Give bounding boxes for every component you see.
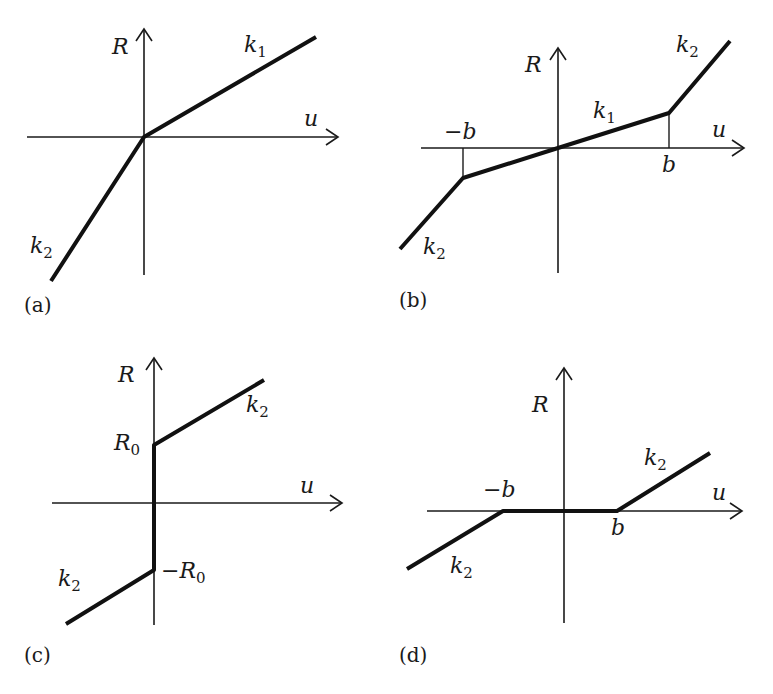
neg-b-label: −b <box>483 477 516 502</box>
r-axis-label: R <box>531 392 549 417</box>
neg-b-label: −b <box>444 119 477 144</box>
r-axis-label: R <box>117 362 135 387</box>
pos-b-label: b <box>662 152 676 177</box>
trilinear-curve <box>400 41 730 249</box>
k1-label: k1 <box>593 98 616 127</box>
panel-a: R u k1 k2 (a) <box>24 29 338 317</box>
friction-curve <box>66 380 264 624</box>
u-axis-label: u <box>712 480 726 505</box>
u-axis-label: u <box>712 117 726 142</box>
panel-c: R u R0 −R0 k2 k2 (c) <box>24 358 342 667</box>
k2-label: k2 <box>30 233 53 262</box>
force-displacement-diagrams: R u k1 k2 (a) R u −b b k1 k2 k2 (b) R u … <box>0 0 773 694</box>
panel-caption-c: (c) <box>24 643 51 667</box>
r0-label: R0 <box>113 430 140 459</box>
k2-upper-label: k2 <box>676 32 699 61</box>
r-axis-label: R <box>524 52 542 77</box>
k2-lower-label: k2 <box>423 234 446 263</box>
k2-upper-label: k2 <box>644 445 667 474</box>
panel-d: R u −b b k2 k2 (d) <box>399 368 742 667</box>
panel-caption-d: (d) <box>399 643 427 667</box>
panel-b: R u −b b k1 k2 k2 (b) <box>399 32 744 312</box>
u-axis-label: u <box>304 106 318 131</box>
panel-caption-a: (a) <box>24 293 52 317</box>
pos-b-label: b <box>611 515 625 540</box>
k2-lower-label: k2 <box>58 566 81 595</box>
k2-lower-label: k2 <box>450 553 473 582</box>
u-axis-label: u <box>300 473 314 498</box>
r-axis-label: R <box>111 34 129 59</box>
bilinear-curve <box>51 37 316 281</box>
k2-upper-label: k2 <box>246 392 269 421</box>
panel-caption-b: (b) <box>399 288 427 312</box>
k1-label: k1 <box>244 32 267 61</box>
neg-r0-label: −R0 <box>161 558 206 587</box>
